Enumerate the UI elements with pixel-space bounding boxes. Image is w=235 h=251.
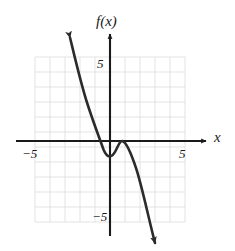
y-tick-label-minus-5: −5 xyxy=(92,210,107,223)
coordinate-plane xyxy=(0,0,235,251)
graph-figure: f(x) x 5 −5 5 −5 xyxy=(0,0,235,251)
x-tick-label-minus-5: −5 xyxy=(22,147,37,160)
x-axis-label: x xyxy=(214,130,221,145)
y-tick-label-5: 5 xyxy=(97,57,104,70)
x-tick-label-5: 5 xyxy=(179,147,186,160)
function-label: f(x) xyxy=(96,14,117,29)
